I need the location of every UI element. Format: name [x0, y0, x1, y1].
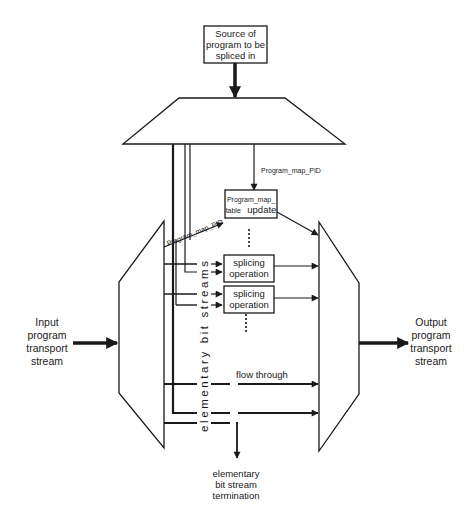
- splicing-operation-2: splicing operation: [224, 286, 274, 313]
- svg-text:Input: Input: [35, 316, 58, 328]
- svg-text:stream: stream: [415, 355, 447, 367]
- pmt-to-mux-arrow: [277, 212, 318, 235]
- splicing-diagram: Source of program to be spliced in Input…: [0, 0, 476, 525]
- svg-text:program: program: [411, 329, 450, 341]
- svg-text:termination: termination: [213, 490, 260, 501]
- svg-text:transport: transport: [410, 342, 452, 354]
- right-mux: [319, 222, 359, 451]
- pid-label-top: Program_map_PID: [261, 167, 321, 175]
- svg-text:Program_map_: Program_map_: [227, 196, 275, 204]
- ellipsis-upper: [248, 229, 250, 247]
- source-line-2: program to be: [206, 39, 265, 50]
- svg-text:operation: operation: [229, 268, 269, 279]
- svg-text:elementary: elementary: [213, 468, 260, 479]
- svg-text:splicing: splicing: [233, 288, 265, 299]
- termination-label: elementary bit stream termination: [213, 468, 260, 501]
- source-line-1: Source of: [215, 28, 256, 39]
- flow-through-label: flow through: [236, 369, 288, 380]
- source-line-3: spliced in: [216, 50, 256, 61]
- output-label: Output program transport stream: [410, 316, 452, 367]
- svg-text:stream: stream: [31, 355, 63, 367]
- svg-text:program: program: [27, 329, 66, 341]
- pid-label-diagonal: Program_map_PID: [166, 218, 225, 248]
- svg-text:bit stream: bit stream: [215, 479, 257, 490]
- svg-text:Output: Output: [415, 316, 447, 328]
- svg-text:splicing: splicing: [233, 257, 265, 268]
- elementary-bit-streams-label: elementary bit streams: [198, 258, 210, 432]
- svg-text:operation: operation: [229, 299, 269, 310]
- splicing-operation-1: splicing operation: [224, 255, 274, 282]
- left-demux: [119, 221, 164, 448]
- top-mux: [123, 98, 345, 144]
- svg-text:transport: transport: [26, 342, 68, 354]
- source-program-box: Source of program to be spliced in: [204, 26, 267, 63]
- pmt-update-box: Program_map_ table update: [225, 190, 277, 218]
- input-label: Input program transport stream: [26, 316, 68, 367]
- ellipsis-lower: [245, 314, 247, 332]
